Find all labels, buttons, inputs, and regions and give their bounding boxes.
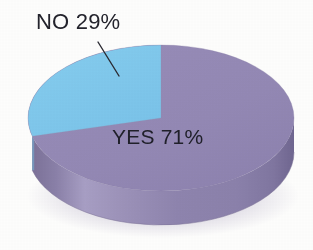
pie-chart: NO 29% YES 71% [0, 0, 313, 250]
slice-label-yes: YES 71% [112, 124, 203, 149]
side-wall-blue-sliver [32, 136, 34, 170]
pie-top-face [28, 45, 294, 191]
slice-label-no: NO 29% [36, 9, 120, 35]
